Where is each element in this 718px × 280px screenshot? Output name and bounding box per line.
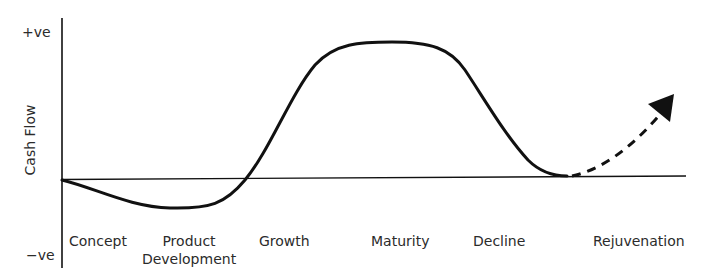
stage-growth: Growth bbox=[259, 233, 310, 249]
y-tick-positive: +ve bbox=[22, 24, 51, 40]
stage-product-development: Product Development bbox=[134, 233, 244, 267]
arrowhead-icon bbox=[648, 94, 674, 122]
stage-concept: Concept bbox=[69, 233, 127, 249]
x-axis-zero-line bbox=[62, 176, 686, 180]
stage-maturity: Maturity bbox=[371, 233, 429, 249]
stage-product-line1: Product bbox=[134, 233, 244, 249]
stage-decline: Decline bbox=[473, 233, 525, 249]
y-tick-negative: −ve bbox=[26, 247, 55, 263]
stage-rejuvenation: Rejuvenation bbox=[593, 233, 685, 249]
stage-product-line2: Development bbox=[134, 251, 244, 267]
y-axis-label: Cash Flow bbox=[22, 105, 38, 176]
cash-flow-curve bbox=[62, 42, 567, 208]
rejuvenation-dashed-line bbox=[572, 112, 662, 176]
